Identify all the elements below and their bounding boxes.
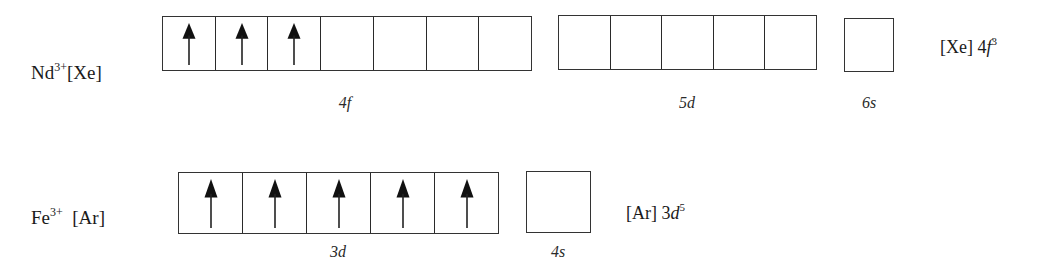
nd-charge: 3+ xyxy=(54,60,67,74)
orbital-box xyxy=(243,173,307,233)
orbital-box xyxy=(321,17,374,70)
label-6s-letter: s xyxy=(870,94,876,111)
fe-3d-orbitals xyxy=(178,172,499,234)
spin-up-arrow-icon xyxy=(203,179,219,228)
fe-config-exponent: 5 xyxy=(679,201,685,213)
nd-ion-label: Nd3+[Xe] xyxy=(31,63,102,82)
label-4f-num: 4 xyxy=(339,94,347,111)
label-3d: 3d xyxy=(313,244,363,260)
nd-4f-orbitals xyxy=(162,16,532,71)
orbital-box xyxy=(307,173,371,233)
label-3d-num: 3 xyxy=(330,243,338,260)
orbital-box xyxy=(559,16,611,69)
fe-4s-orbital xyxy=(526,171,591,233)
nd-config-letter: f xyxy=(986,37,991,57)
label-4f-letter: f xyxy=(347,94,351,111)
spin-up-arrow-icon xyxy=(459,179,475,228)
orbital-box xyxy=(427,17,480,70)
orbital-box xyxy=(371,173,435,233)
label-5d-num: 5 xyxy=(679,94,687,111)
spin-up-arrow-icon xyxy=(234,23,250,65)
fe-core: [Ar] xyxy=(72,207,105,228)
label-6s: 6s xyxy=(844,95,894,111)
label-6s-num: 6 xyxy=(862,94,870,111)
nd-config-exponent: 3 xyxy=(992,35,998,47)
nd-5d-orbitals xyxy=(558,15,817,70)
label-4s: 4s xyxy=(533,244,583,260)
orbital-box xyxy=(268,17,321,70)
label-4f: 4f xyxy=(320,95,370,111)
orbital-box xyxy=(662,16,714,69)
spin-up-arrow-icon xyxy=(267,179,283,228)
label-5d: 5d xyxy=(662,95,712,111)
fe-symbol: Fe xyxy=(31,207,50,228)
orbital-box xyxy=(374,17,427,70)
orbital-box xyxy=(611,16,663,69)
spin-up-arrow-icon xyxy=(286,23,302,65)
orbital-box xyxy=(714,16,766,69)
nd-configuration: [Xe] 4f3 xyxy=(940,38,997,56)
label-5d-letter: d xyxy=(687,94,695,111)
fe-configuration: [Ar] 3d5 xyxy=(626,204,685,222)
nd-symbol: Nd xyxy=(31,62,54,83)
spin-up-arrow-icon xyxy=(181,23,197,65)
nd-core: [Xe] xyxy=(67,62,102,83)
spin-up-arrow-icon xyxy=(395,179,411,228)
label-4s-letter: s xyxy=(559,243,565,260)
fe-ion-label: Fe3+ [Ar] xyxy=(31,208,105,227)
fe-charge: 3+ xyxy=(50,205,63,219)
orbital-box xyxy=(179,173,243,233)
orbital-box xyxy=(163,17,216,70)
spin-up-arrow-icon xyxy=(331,179,347,228)
label-4s-num: 4 xyxy=(551,243,559,260)
orbital-box xyxy=(216,17,269,70)
orbital-box xyxy=(479,17,531,70)
orbital-box xyxy=(435,173,498,233)
orbital-box xyxy=(765,16,816,69)
fe-config-core: [Ar] xyxy=(626,203,657,223)
nd-6s-orbital xyxy=(844,18,894,72)
nd-config-core: [Xe] xyxy=(940,37,973,57)
label-3d-letter: d xyxy=(338,243,346,260)
